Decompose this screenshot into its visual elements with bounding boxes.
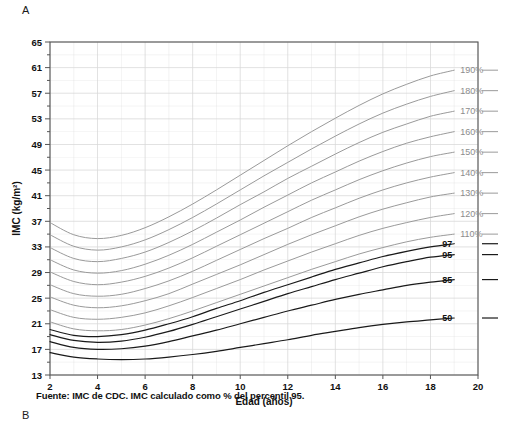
ytick-label: 53 [31,113,42,124]
series-label-85: 85 [442,275,452,285]
bmi-percentile-chart: 2468101214161820131721252933374145495357… [0,0,517,430]
series-label-110pct: 110% [460,229,482,239]
ytick-label: 21 [31,318,42,329]
series-label-140pct: 140% [460,168,483,178]
ytick-label: 29 [31,267,42,278]
ytick-label: 25 [31,293,42,304]
series-label-95: 95 [442,250,452,260]
series-label-130pct: 130% [460,188,483,198]
ytick-label: 37 [31,216,42,227]
figure-caption: Fuente: IMC de CDC. IMC calculado como %… [36,390,304,401]
y-axis-title: IMC (kg/m²) [11,181,22,235]
series-label-190pct: 190% [460,65,483,75]
series-label-160pct: 160% [460,127,483,137]
ytick-label: 13 [31,370,42,381]
figure-panel-a: A 24681012141618201317212529333741454953… [0,0,517,430]
ytick-label: 49 [31,139,42,150]
xtick-label: 20 [473,381,484,392]
xtick-label: 14 [330,381,341,392]
series-label-97: 97 [442,239,452,249]
ytick-label: 61 [31,62,42,73]
series-label-50: 50 [442,313,452,323]
xtick-label: 16 [378,381,389,392]
panel-letter-b: B [22,409,29,421]
series-label-150pct: 150% [460,147,483,157]
ytick-label: 57 [31,88,42,99]
ytick-label: 17 [31,344,42,355]
ytick-label: 33 [31,241,42,252]
ytick-label: 41 [31,190,42,201]
xtick-label: 18 [425,381,436,392]
series-label-120pct: 120% [460,209,483,219]
series-label-180pct: 180% [460,86,483,96]
ytick-label: 45 [31,165,42,176]
ytick-label: 65 [31,37,42,48]
series-label-170pct: 170% [460,106,483,116]
grid-layer [50,42,478,375]
